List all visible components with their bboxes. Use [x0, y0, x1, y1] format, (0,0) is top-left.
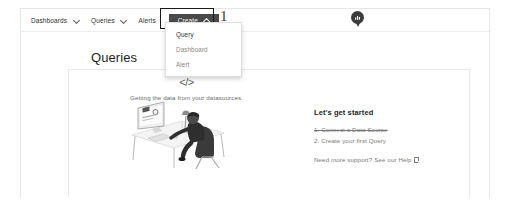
nav-item-dashboards-label: Dashboards [31, 17, 67, 24]
page-title: Queries [91, 50, 137, 65]
create-dropdown-menu: Query Dashboard Alert [165, 22, 242, 77]
nav-item-alerts-label: Alerts [139, 17, 156, 24]
chevron-down-icon [121, 17, 128, 24]
get-started-step-2[interactable]: 2. Create your first Query [314, 137, 459, 144]
person-at-desk-illustration [126, 98, 241, 170]
nav-item-alerts[interactable]: Alerts [139, 17, 156, 24]
support-prefix: Need more support? [314, 156, 372, 163]
brand-badge-icon[interactable] [351, 11, 364, 24]
nav-item-queries-label: Queries [91, 17, 114, 24]
menu-item-alert[interactable]: Alert [166, 57, 241, 72]
external-link-icon [414, 157, 419, 162]
get-started-step-1[interactable]: 1. Connect a Data Source [314, 126, 459, 133]
menu-item-dashboard[interactable]: Dashboard [166, 42, 241, 57]
menu-item-query[interactable]: Query [166, 27, 241, 42]
support-line: Need more support? See our Help [314, 156, 459, 163]
get-started-title: Let's get started [314, 108, 459, 117]
chevron-down-icon [73, 17, 80, 24]
content-card: </> Getting the data from your datasourc… [68, 69, 470, 197]
code-glyph-icon: </> [79, 76, 294, 88]
get-started-panel: Let's get started 1. Connect a Data Sour… [314, 108, 459, 163]
application-window: Dashboards Queries Alerts Create Queries [20, 8, 490, 198]
help-link[interactable]: See our Help [374, 156, 411, 163]
top-navigation-bar: Dashboards Queries Alerts Create [21, 9, 489, 32]
page-body: Queries </> Getting the data from your d… [21, 32, 489, 198]
nav-item-queries[interactable]: Queries [91, 17, 127, 24]
nav-item-dashboards[interactable]: Dashboards [31, 17, 80, 24]
